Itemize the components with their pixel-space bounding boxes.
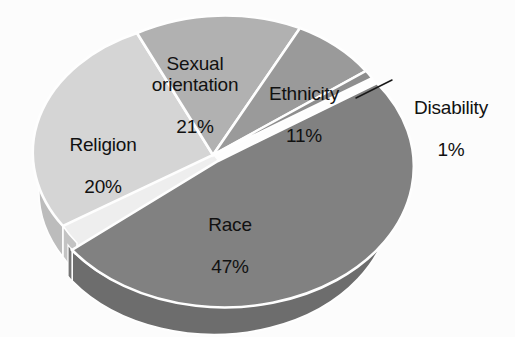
pie-chart-canvas [0,0,515,337]
pie-chart-figure: Sexual orientation 21% Ethnicity 11% Rel… [0,0,515,337]
